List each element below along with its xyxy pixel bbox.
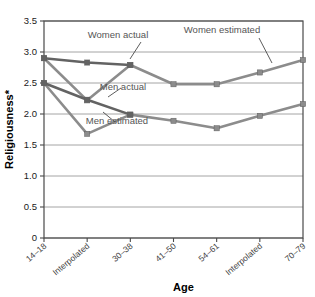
annotation-label: Men estimated xyxy=(86,115,148,126)
x-tick-label: 54–61 xyxy=(196,241,221,264)
data-point-marker xyxy=(41,80,46,85)
data-point-marker xyxy=(300,57,305,62)
y-axis-title: Religiousness* xyxy=(3,89,15,169)
y-tick-label: 3.5 xyxy=(24,15,37,26)
data-point-marker xyxy=(257,70,262,75)
annotation-label: Women estimated xyxy=(184,24,260,35)
x-tick-label: Interpolated xyxy=(223,241,264,278)
x-tick-label: 41–50 xyxy=(153,241,178,264)
y-tick-label: 0 xyxy=(32,232,37,243)
y-tick-label: 2.5 xyxy=(24,77,37,88)
y-tick-label: 0.5 xyxy=(24,201,37,212)
data-point-marker xyxy=(214,126,219,131)
data-point-marker xyxy=(300,101,305,106)
x-tick-label: 14–18 xyxy=(24,241,49,264)
y-tick-label: 1.0 xyxy=(24,170,37,181)
x-tick-label: 70–79 xyxy=(283,241,308,264)
x-tick-label: 30–38 xyxy=(110,241,135,264)
data-point-marker xyxy=(41,56,46,61)
y-tick-label: 2.0 xyxy=(24,108,37,119)
religiousness-by-age-line-chart: 00.51.01.52.02.53.03.5Religiousness*14–1… xyxy=(0,0,315,297)
annotation-label: Men actual xyxy=(100,81,146,92)
data-point-marker xyxy=(85,97,90,102)
x-tick-label: Interpolated xyxy=(51,241,92,278)
data-point-marker xyxy=(171,118,176,123)
data-point-marker xyxy=(85,131,90,136)
y-tick-label: 1.5 xyxy=(24,139,37,150)
data-point-marker xyxy=(85,60,90,65)
data-point-marker xyxy=(171,82,176,87)
annotation-label: Women actual xyxy=(88,29,149,40)
chart-container: 00.51.01.52.02.53.03.5Religiousness*14–1… xyxy=(0,0,315,297)
data-point-marker xyxy=(128,62,133,67)
data-point-marker xyxy=(214,82,219,87)
data-point-marker xyxy=(257,113,262,118)
y-tick-label: 3.0 xyxy=(24,46,37,57)
x-axis-title: Age xyxy=(173,281,194,293)
